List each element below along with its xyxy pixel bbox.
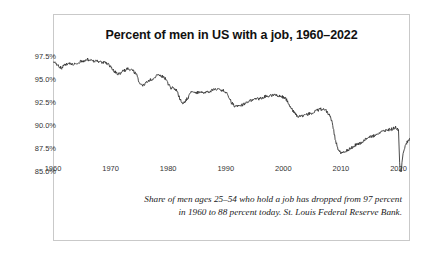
figure-caption: Share of men ages 25–54 who hold a job h… [62,193,402,218]
caption-line-1: Share of men ages 25–54 who hold a job h… [62,193,402,206]
x-tick-label: 1980 [160,165,177,173]
x-tick-label: 1990 [217,165,234,173]
series-line-employment-ratio [53,58,410,172]
x-tick-label: 2020 [390,165,407,173]
caption-line-2: in 1960 to 88 percent today. St. Louis F… [62,206,402,219]
x-tick-label: 2000 [275,165,292,173]
x-axis-tick-labels: 1960197019801990200020102020 [53,165,410,179]
x-tick-label: 2010 [333,165,350,173]
figure-container: Percent of men in US with a job, 1960–20… [0,0,433,253]
x-tick-label: 1960 [45,165,62,173]
chart-title: Percent of men in US with a job, 1960–20… [53,28,410,42]
x-tick-label: 1970 [102,165,119,173]
y-axis-tick-labels: 85.0%87.5%90.0%92.5%95.0%97.5% [26,52,56,164]
line-chart-svg [53,52,410,172]
plot-area [53,52,410,172]
